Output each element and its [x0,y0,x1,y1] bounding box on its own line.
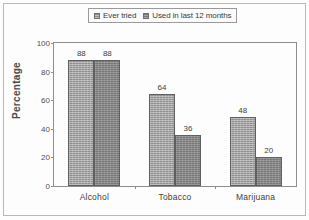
bar-alcohol-series-2 [94,60,120,186]
legend-entry-last-12-months: Used in last 12 months [143,11,231,20]
bar-tobacco-series-1 [149,94,175,186]
y-axis-tick-mark [51,72,54,73]
y-axis-tick-label: 20 [28,153,50,162]
legend-swatch-last-12-months-icon [143,13,149,19]
y-axis-tick-mark [51,100,54,101]
x-axis-category-alcohol: Alcohol [54,192,135,202]
y-axis-tick-label: 40 [28,125,50,134]
bar-value-label: 48 [230,106,256,115]
x-axis-category-tobacco: Tobacco [135,192,216,202]
y-axis-title: Percentage [11,46,22,136]
bar-value-label: 88 [68,49,94,58]
legend-entry-ever-tried: Ever tried [94,11,136,20]
y-axis-tick-mark [51,186,54,187]
y-axis-tick-label: 80 [28,68,50,77]
bar-value-label: 64 [149,83,175,92]
plot-inner: 020406080100888864364820 [54,43,296,186]
legend-swatch-ever-tried-icon [94,13,100,19]
chart-legend: Ever tried Used in last 12 months [88,8,237,23]
x-axis-tick-mark [215,186,216,189]
bar-marijuana-series-1 [230,117,256,186]
y-axis-tick-mark [51,43,54,44]
legend-label-ever-tried: Ever tried [103,11,136,20]
bar-marijuana-series-2 [256,157,282,186]
bar-alcohol-series-1 [68,60,94,186]
y-axis-tick-label: 60 [28,96,50,105]
bar-chart-figure: Ever tried Used in last 12 months Percen… [0,0,309,220]
bar-tobacco-series-2 [175,135,201,186]
x-axis-category-marijuana: Marijuana [215,192,296,202]
y-axis-tick-mark [51,157,54,158]
bar-value-label: 88 [94,49,120,58]
y-axis-tick-mark [51,129,54,130]
plot-area: 020406080100888864364820 AlcoholTobaccoM… [53,42,297,187]
bar-value-label: 20 [256,146,282,155]
y-axis-tick-label: 0 [28,182,50,191]
legend-label-last-12-months: Used in last 12 months [152,11,231,20]
y-axis-tick-label: 100 [28,39,50,48]
x-axis-tick-mark [135,186,136,189]
bar-value-label: 36 [175,124,201,133]
